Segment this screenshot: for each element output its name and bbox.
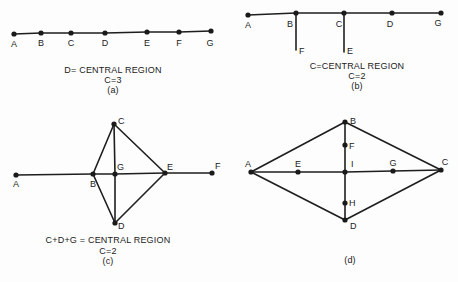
node-H [342, 200, 347, 205]
node-label-F: F [176, 38, 182, 48]
node-label-A: A [245, 159, 251, 169]
node-G [112, 171, 117, 176]
node-label-D: D [102, 38, 109, 48]
diagram-svg: ABCDEFGD= CENTRAL REGIONC=3(a) ABCDGFEC=… [0, 0, 458, 282]
edge-G-C [393, 170, 441, 171]
caption-line-1: D= CENTRAL REGION [64, 65, 161, 75]
node-D [102, 30, 107, 35]
edge-A-B [16, 174, 93, 175]
graph-diagrams-figure: ABCDEFGD= CENTRAL REGIONC=3(a) ABCDGFEC=… [0, 0, 458, 282]
panel-d-rhombus-graph: AEIGCBFHD(d) [245, 116, 449, 265]
node-label-A: A [245, 20, 251, 30]
node-B [90, 171, 95, 176]
node-G [390, 168, 395, 173]
panel-a-linear-graph: ABCDEFGD= CENTRAL REGIONC=3(a) [11, 28, 214, 95]
node-label-G: G [206, 38, 213, 48]
node-E [144, 29, 149, 34]
node-label-C: C [336, 19, 343, 29]
node-label-G: G [117, 162, 124, 172]
node-A [245, 12, 250, 17]
edge-D-E [105, 32, 147, 33]
node-label-I: I [351, 159, 354, 169]
node-label-F: F [215, 161, 221, 171]
node-label-E: E [295, 159, 301, 169]
node-F [176, 29, 181, 34]
node-label-C: C [68, 38, 75, 48]
edge-A-B [248, 13, 296, 15]
node-C [341, 10, 346, 15]
caption-line-2: C=2 [99, 246, 116, 256]
node-C [438, 167, 443, 172]
caption-line-3: (b) [351, 81, 363, 91]
node-label-A: A [13, 179, 19, 189]
node-label-A: A [11, 39, 17, 49]
node-A [11, 31, 16, 36]
caption-line-2: C=3 [104, 75, 121, 85]
node-label-G: G [434, 18, 441, 28]
edge-A-D [251, 172, 345, 220]
node-label-B: B [350, 116, 356, 126]
node-E [295, 169, 300, 174]
node-B [38, 30, 43, 35]
edge-G-E [115, 173, 165, 174]
edge-B-C [93, 124, 114, 174]
node-label-G: G [389, 158, 396, 168]
node-label-E: E [347, 46, 353, 56]
node-A [248, 169, 253, 174]
panel-b-branched-graph: ABCDGFEC=CENTRAL REGIONC=2(b) [245, 10, 444, 91]
node-label-D: D [350, 221, 357, 231]
caption-line-1: C+D+G = CENTRAL REGION [46, 235, 171, 245]
node-label-D: D [118, 221, 125, 231]
node-G [208, 28, 213, 33]
node-C [111, 121, 116, 126]
node-label-E: E [144, 38, 150, 48]
node-label-H: H [349, 198, 356, 208]
node-label-B: B [38, 38, 44, 48]
caption-line-3: (a) [107, 85, 119, 95]
node-F [209, 170, 214, 175]
edge-F-G [179, 31, 211, 32]
node-label-F: F [349, 141, 355, 151]
edge-D-C [345, 170, 441, 220]
node-I [342, 169, 347, 174]
node-B [342, 119, 347, 124]
node-G [438, 10, 443, 15]
node-label-B: B [287, 19, 293, 29]
caption-line-1: (d) [344, 255, 356, 265]
caption-line-3: (c) [102, 256, 113, 266]
node-C [68, 30, 73, 35]
edge-I-G [345, 171, 393, 172]
edge-C-G [114, 124, 115, 174]
edge-A-B [14, 33, 41, 34]
node-A [13, 172, 18, 177]
node-B [293, 10, 298, 15]
node-label-F: F [299, 46, 305, 56]
node-D [342, 217, 347, 222]
edge-B-D [93, 174, 115, 223]
panel-c-diamond-graph: ABGEFCDC+D+G = CENTRAL REGIONC=2(c) [13, 116, 221, 266]
node-label-C: C [442, 157, 449, 167]
node-label-D: D [387, 19, 394, 29]
caption-line-2: C=2 [348, 71, 365, 81]
node-label-B: B [90, 179, 96, 189]
node-D [112, 220, 117, 225]
edge-D-E [115, 173, 165, 223]
node-label-E: E [167, 162, 173, 172]
node-label-C: C [118, 116, 125, 126]
node-F [342, 142, 347, 147]
caption-line-1: C=CENTRAL REGION [310, 61, 405, 71]
node-D [389, 10, 394, 15]
